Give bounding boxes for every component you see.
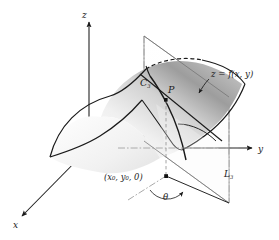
foot-point-label: (x₀, y₀, 0) bbox=[104, 172, 143, 182]
angle-theta-label: θ bbox=[163, 192, 169, 202]
point-p-label: P bbox=[167, 84, 175, 95]
surface-equation-label: z = f(x, y) bbox=[210, 69, 253, 79]
point-p-marker bbox=[164, 98, 168, 102]
x-axis-label: x bbox=[13, 220, 18, 230]
diagram-svg: z y x C3 P z = f(x, y) L3 (x₀, y₀, 0) θ bbox=[0, 0, 279, 240]
line-l3-label: L3 bbox=[223, 168, 234, 180]
foot-point-marker bbox=[164, 174, 168, 178]
z-axis-label: z bbox=[81, 10, 87, 20]
figure-canvas: z y x C3 P z = f(x, y) L3 (x₀, y₀, 0) θ bbox=[0, 0, 279, 240]
y-axis-label: y bbox=[257, 144, 264, 154]
